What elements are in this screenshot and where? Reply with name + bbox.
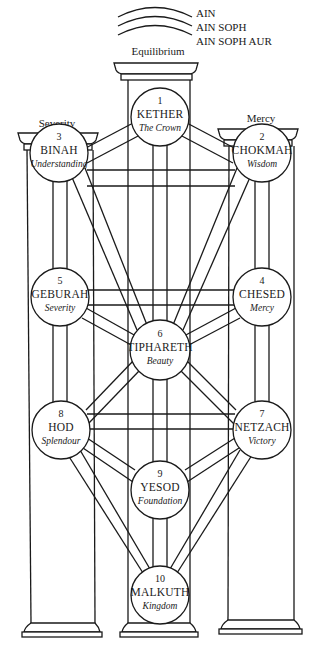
sephirah-chokmah: 2 CHOKMAH Wisdom — [232, 124, 293, 182]
svg-text:Victory: Victory — [248, 436, 276, 446]
pillar-severity — [18, 133, 102, 637]
svg-text:1: 1 — [158, 95, 163, 106]
svg-text:2: 2 — [260, 131, 265, 142]
sephirah-geburah: 5 GEBURAH Severity — [31, 268, 89, 326]
svg-text:MALKUTH: MALKUTH — [131, 586, 190, 598]
svg-text:5: 5 — [58, 275, 63, 286]
svg-text:4: 4 — [260, 275, 265, 286]
svg-text:The Crown: The Crown — [139, 123, 181, 133]
svg-text:Beauty: Beauty — [147, 356, 174, 366]
svg-text:Understanding: Understanding — [31, 159, 88, 169]
svg-text:3: 3 — [57, 131, 62, 142]
svg-text:TIPHARETH: TIPHARETH — [127, 341, 193, 353]
svg-text:6: 6 — [158, 328, 163, 339]
svg-text:NETZACH: NETZACH — [234, 421, 289, 433]
pillar-label-equilibrium: Equilibrium — [131, 45, 185, 57]
pillar-mercy — [218, 129, 302, 634]
svg-text:HOD: HOD — [48, 421, 74, 433]
svg-text:GEBURAH: GEBURAH — [32, 288, 89, 300]
svg-text:Foundation: Foundation — [137, 496, 183, 506]
svg-text:Mercy: Mercy — [249, 303, 275, 313]
svg-text:10: 10 — [155, 573, 165, 584]
sephirah-malkuth: 10 MALKUTH Kingdom — [131, 566, 190, 624]
sephirah-binah: 3 BINAH Understanding — [30, 124, 88, 182]
veil-ain-soph-aur: AIN SOPH AUR — [196, 35, 272, 47]
svg-text:Severity: Severity — [45, 303, 76, 313]
svg-text:CHESED: CHESED — [239, 288, 285, 300]
sephirah-chesed: 4 CHESED Mercy — [233, 268, 291, 326]
svg-text:KETHER: KETHER — [137, 108, 184, 120]
sephirah-kether: 1 KETHER The Crown — [131, 88, 189, 146]
pillar-label-mercy: Mercy — [247, 112, 276, 124]
svg-text:8: 8 — [59, 408, 64, 419]
veil-ain: AIN — [196, 7, 216, 19]
sephirah-hod: 8 HOD Splendour — [32, 401, 90, 459]
veil-ain-soph: AIN SOPH — [196, 21, 246, 33]
sephirah-netzach: 7 NETZACH Victory — [233, 401, 291, 459]
svg-text:YESOD: YESOD — [140, 481, 179, 493]
tree-of-life-diagram: AIN AIN SOPH AIN SOPH AUR Equilibrium Se… — [0, 0, 317, 665]
svg-text:7: 7 — [260, 408, 265, 419]
sephirah-yesod: 9 YESOD Foundation — [131, 461, 189, 519]
svg-text:BINAH: BINAH — [40, 144, 77, 156]
veil-arcs — [118, 8, 192, 36]
svg-text:CHOKMAH: CHOKMAH — [232, 144, 293, 156]
svg-text:Kingdom: Kingdom — [142, 601, 178, 611]
svg-text:Splendour: Splendour — [41, 436, 80, 446]
svg-text:Wisdom: Wisdom — [247, 159, 277, 169]
svg-text:9: 9 — [158, 468, 163, 479]
